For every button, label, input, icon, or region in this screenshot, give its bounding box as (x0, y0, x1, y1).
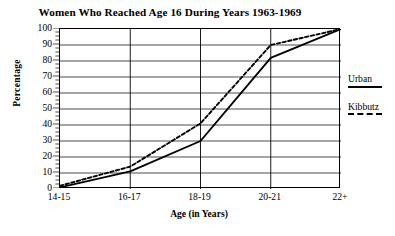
chart-legend: UrbanKibbutz (348, 74, 395, 129)
x-tick-label: 14-15 (29, 192, 89, 202)
legend-swatch-solid (348, 86, 382, 93)
legend-label: Urban (348, 74, 395, 85)
y-tick-label: 60 (12, 87, 52, 97)
y-tick-label: 40 (12, 119, 52, 129)
y-tick-label: 80 (12, 55, 52, 65)
legend-entry-urban: Urban (348, 74, 395, 93)
x-tick-label: 16-17 (99, 192, 159, 202)
x-tick-label: 20-21 (240, 192, 300, 202)
y-tick-label: 30 (12, 135, 52, 145)
y-tick-label: 20 (12, 151, 52, 161)
legend-label: Kibbutz (348, 102, 395, 113)
chart-title: Women Who Reached Age 16 During Years 19… (0, 6, 340, 18)
legend-entry-kibbutz: Kibbutz (348, 102, 395, 121)
y-tick-label: 50 (12, 103, 52, 113)
y-tick-label: 70 (12, 71, 52, 81)
legend-swatch-dashed (348, 113, 382, 120)
x-tick-label: 18-19 (170, 192, 230, 202)
x-axis-title: Age (in Years) (58, 208, 340, 219)
y-tick-label: 90 (12, 39, 52, 49)
x-tick-label: 22+ (310, 192, 370, 202)
y-tick-label: 10 (12, 167, 52, 177)
y-axis-title: Percentage (12, 38, 22, 128)
y-tick-label: 100 (12, 23, 52, 33)
plot-area (59, 28, 340, 188)
chart-figure: Women Who Reached Age 16 During Years 19… (0, 0, 395, 236)
